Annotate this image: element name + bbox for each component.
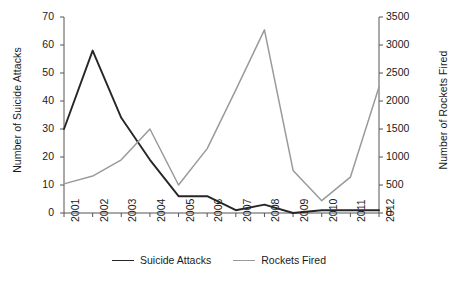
legend-label: Rockets Fired	[261, 254, 326, 266]
legend-line-swatch	[233, 260, 255, 261]
legend-label: Suicide Attacks	[140, 254, 211, 266]
chart-container: Number of Suicide Attacks Number of Rock…	[0, 0, 459, 281]
series-line-rockets-fired	[64, 30, 379, 201]
plot-area	[0, 0, 459, 281]
legend-item: Suicide Attacks	[112, 254, 211, 266]
series-line-suicide-attacks	[64, 51, 379, 213]
chart-legend: Suicide AttacksRockets Fired	[112, 254, 326, 266]
series-lines	[64, 30, 379, 213]
legend-line-swatch	[112, 260, 134, 261]
axis-lines	[60, 17, 383, 217]
legend-item: Rockets Fired	[233, 254, 326, 266]
